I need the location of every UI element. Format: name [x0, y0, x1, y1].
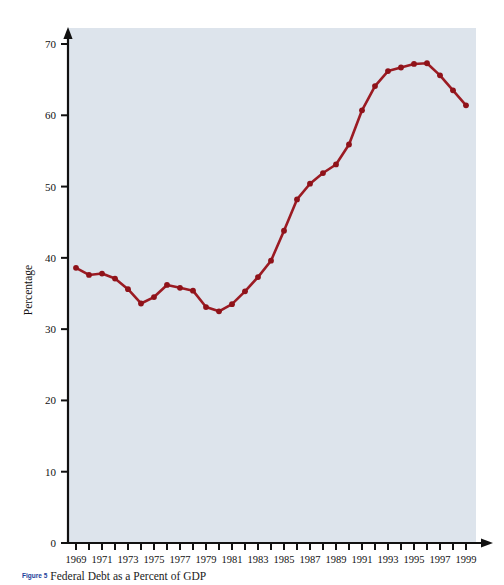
x-axis-tick-label: 1973	[118, 554, 139, 565]
data-point-marker	[411, 61, 417, 67]
plot-background	[68, 28, 476, 543]
data-point-marker	[216, 308, 222, 314]
data-point-marker	[437, 72, 443, 78]
y-axis-tick-label: 10	[45, 466, 57, 478]
x-axis-tick-label: 1987	[300, 554, 321, 565]
figure-caption: Figure 5Federal Debt as a Percent of GDP	[22, 570, 492, 582]
figure-container: 010203040506070 196919711973197519771979…	[0, 0, 504, 585]
data-point-marker	[112, 276, 118, 282]
data-point-marker	[190, 288, 196, 294]
data-point-marker	[372, 83, 378, 89]
y-axis-tick-labels: 010203040506070	[45, 38, 57, 549]
data-point-marker	[346, 142, 352, 148]
data-point-marker	[281, 228, 287, 234]
y-axis-tick-label: 30	[45, 323, 57, 335]
data-point-marker	[177, 285, 183, 291]
data-point-marker	[450, 87, 456, 93]
data-point-marker	[99, 271, 105, 277]
x-axis-tick-label: 1989	[326, 554, 347, 565]
data-point-marker	[203, 304, 209, 310]
data-point-marker	[73, 265, 79, 271]
data-point-marker	[359, 107, 365, 113]
x-axis-tick-label: 1975	[144, 554, 165, 565]
data-point-marker	[294, 197, 300, 203]
figure-number-label: Figure 5	[22, 572, 47, 579]
y-axis-tick-label: 40	[45, 252, 57, 264]
figure-caption-text: Federal Debt as a Percent of GDP	[50, 570, 206, 582]
data-point-marker	[86, 272, 92, 278]
data-point-marker	[307, 181, 313, 187]
data-point-marker	[151, 294, 157, 300]
y-axis-tick-label: 50	[45, 181, 57, 193]
y-axis-tick-label: 20	[45, 394, 57, 406]
x-axis-tick-label: 1991	[352, 554, 373, 565]
data-point-marker	[125, 286, 131, 292]
y-axis-tick-label: 60	[45, 109, 57, 121]
x-axis-tick-label: 1993	[378, 554, 399, 565]
x-axis-tick-label: 1985	[274, 554, 295, 565]
data-point-marker	[333, 162, 339, 168]
data-point-marker	[229, 301, 235, 307]
x-axis-arrow-head	[481, 538, 493, 547]
data-point-marker	[255, 274, 261, 280]
x-axis-tick-label: 1983	[248, 554, 269, 565]
data-point-marker	[385, 68, 391, 74]
x-axis-tick-label: 1997	[430, 554, 451, 565]
federal-debt-line-chart: 010203040506070 196919711973197519771979…	[0, 0, 504, 585]
x-axis-tick-label: 1969	[66, 554, 87, 565]
x-axis-tick-labels: 1969197119731975197719791981198319851987…	[66, 554, 477, 565]
y-axis-tick-label: 0	[51, 537, 57, 549]
y-axis-tick-label: 70	[45, 38, 57, 50]
data-point-marker	[463, 102, 469, 108]
data-point-marker	[424, 60, 430, 66]
data-point-marker	[398, 65, 404, 71]
data-point-marker	[164, 282, 170, 288]
x-axis-tick-label: 1977	[170, 554, 191, 565]
y-axis-title: Percentage	[22, 265, 35, 315]
data-point-marker	[320, 170, 326, 176]
x-axis-tick-label: 1995	[404, 554, 425, 565]
x-axis-tick-label: 1971	[92, 554, 113, 565]
data-point-marker	[138, 301, 144, 307]
data-point-marker	[242, 288, 248, 294]
x-axis-tick-label: 1999	[456, 554, 477, 565]
x-axis-tick-label: 1981	[222, 554, 243, 565]
x-axis-tick-label: 1979	[196, 554, 217, 565]
data-point-marker	[268, 258, 274, 264]
